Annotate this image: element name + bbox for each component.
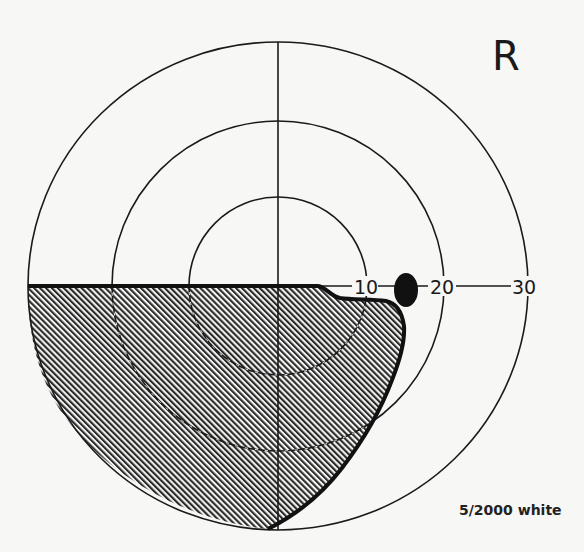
tick-label-20: 20 [430,276,454,298]
tick-label-10: 10 [354,276,378,298]
scotoma-region [28,286,404,529]
blind-spot [394,273,418,307]
tick-label-30: 30 [512,276,536,298]
stimulus-caption: 5/2000 white [459,502,562,518]
eye-label: R [492,36,520,76]
visual-field-chart: 10 20 30 [0,0,584,552]
